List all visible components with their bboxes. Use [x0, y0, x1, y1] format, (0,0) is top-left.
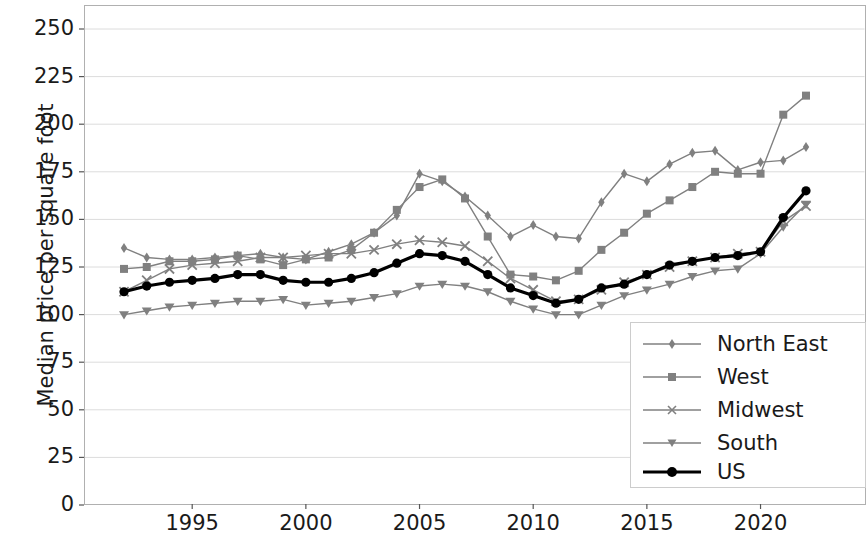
legend-swatch-us: [641, 462, 703, 482]
data-point: [620, 229, 628, 237]
data-point: [506, 283, 515, 292]
data-point: [369, 268, 378, 277]
data-point: [438, 251, 447, 260]
data-point: [460, 257, 469, 266]
data-point: [689, 148, 695, 158]
data-point: [619, 292, 629, 300]
data-point: [529, 291, 538, 300]
data-point: [803, 142, 809, 152]
data-point: [575, 267, 583, 275]
data-point: [233, 270, 242, 279]
data-point: [666, 196, 674, 204]
legend-item-midwest[interactable]: Midwest: [641, 393, 804, 426]
data-point: [484, 233, 492, 241]
legend-swatch-midwest: [641, 400, 703, 420]
legend-item-west[interactable]: West: [641, 360, 769, 393]
data-point: [483, 257, 492, 266]
data-point: [552, 276, 560, 284]
data-point: [392, 259, 401, 268]
data-point: [393, 206, 401, 214]
legend-item-north-east[interactable]: North East: [641, 327, 828, 360]
data-point: [733, 251, 742, 260]
legend-label-midwest: Midwest: [717, 398, 804, 422]
data-point: [483, 288, 493, 296]
data-point: [780, 155, 786, 165]
data-point: [415, 249, 424, 258]
series-line: [124, 147, 806, 259]
data-point: [551, 299, 560, 308]
data-point: [710, 253, 719, 262]
data-point: [256, 270, 265, 279]
data-point: [255, 298, 265, 306]
data-point: [461, 194, 469, 202]
data-point: [642, 270, 651, 279]
data-point: [165, 257, 173, 265]
data-point: [712, 146, 718, 156]
data-point: [144, 252, 150, 262]
data-point: [734, 170, 742, 178]
data-point: [665, 260, 674, 269]
chart-legend[interactable]: North East West Midwest South US: [630, 322, 866, 488]
data-point: [279, 276, 288, 285]
data-point: [802, 92, 810, 100]
chart-figure: Median price per square foot 02550751001…: [0, 0, 866, 533]
data-point: [142, 281, 151, 290]
legend-label-west: West: [717, 365, 769, 389]
data-point: [165, 278, 174, 287]
data-point: [210, 274, 219, 283]
data-point: [530, 220, 536, 230]
data-point: [119, 311, 129, 319]
legend-label-north-east: North East: [717, 332, 828, 356]
data-point: [779, 111, 787, 119]
data-point: [553, 232, 559, 242]
data-point: [120, 265, 128, 273]
data-point: [756, 247, 765, 256]
data-point: [643, 210, 651, 218]
data-point: [301, 278, 310, 287]
data-point: [121, 243, 127, 253]
legend-swatch-north-east: [641, 334, 703, 354]
data-point: [370, 229, 378, 237]
legend-swatch-south: [641, 433, 703, 453]
data-point: [597, 246, 605, 254]
legend-swatch-west: [641, 367, 703, 387]
data-point: [620, 280, 629, 289]
data-point: [574, 295, 583, 304]
data-point: [757, 170, 765, 178]
data-point: [119, 287, 128, 296]
data-point: [279, 261, 287, 269]
data-point: [507, 232, 513, 242]
data-point: [483, 270, 492, 279]
data-point: [416, 183, 424, 191]
data-point: [301, 302, 311, 310]
data-point: [711, 168, 719, 176]
data-point: [666, 159, 672, 169]
data-point: [597, 283, 606, 292]
data-point: [801, 186, 810, 195]
legend-label-us: US: [717, 460, 746, 484]
data-point: [438, 175, 446, 183]
data-point: [347, 274, 356, 283]
data-point: [324, 278, 333, 287]
data-point: [688, 257, 697, 266]
series-west: [120, 92, 810, 285]
legend-item-us[interactable]: US: [641, 455, 746, 488]
data-point: [688, 183, 696, 191]
data-point: [529, 273, 537, 281]
legend-label-south: South: [717, 431, 778, 455]
data-point: [143, 263, 151, 271]
series-line: [124, 96, 806, 281]
data-point: [596, 302, 606, 310]
data-point: [757, 157, 763, 167]
data-point: [188, 276, 197, 285]
data-point: [779, 213, 788, 222]
data-series-group: [119, 92, 811, 320]
data-point: [644, 176, 650, 186]
